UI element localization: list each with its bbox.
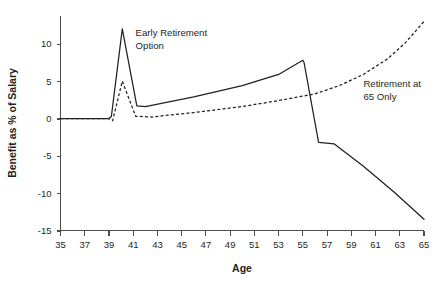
y-tick-label: 5 [46, 76, 51, 87]
y-tick-label: 0 [46, 113, 51, 124]
x-tick-label: 57 [322, 239, 333, 250]
axes-group [61, 16, 425, 231]
x-tick-label: 45 [176, 239, 187, 250]
annotation-line: Option [136, 40, 164, 51]
x-axis-title: Age [232, 262, 252, 274]
x-tick-label: 49 [225, 239, 236, 250]
annotation-line: Retirement at [363, 78, 421, 89]
y-tick-label: -10 [38, 188, 52, 199]
x-tick-label: 37 [79, 239, 90, 250]
y-axis-ticks: 1050-5-10-15 [38, 38, 61, 236]
y-tick-label: -15 [38, 225, 52, 236]
x-tick-label: 35 [55, 239, 66, 250]
annotation-line: 65 Only [363, 91, 396, 102]
y-axis-title: Benefit as % of Salary [6, 68, 18, 178]
x-tick-label: 47 [201, 239, 212, 250]
y-tick-label: 10 [41, 38, 52, 49]
y-tick-label: -5 [43, 150, 51, 161]
series-line-retirement-at-65-only [61, 21, 425, 120]
x-tick-label: 55 [298, 239, 309, 250]
x-axis-ticks: 35373941434547495153555759616365 [55, 231, 429, 251]
benefit-vs-age-line-chart: 1050-5-10-15 353739414345474951535557596… [0, 0, 448, 281]
x-tick-label: 63 [394, 239, 405, 250]
x-tick-label: 43 [152, 239, 163, 250]
x-tick-label: 51 [249, 239, 260, 250]
x-tick-label: 41 [128, 239, 139, 250]
x-tick-label: 59 [346, 239, 357, 250]
x-tick-label: 53 [273, 239, 284, 250]
annotation-line: Early Retirement [136, 27, 208, 38]
x-tick-label: 61 [370, 239, 381, 250]
data-series-layer [61, 21, 425, 219]
x-tick-label: 39 [104, 239, 115, 250]
x-tick-label: 65 [419, 239, 430, 250]
annotation-retirement-at-65-only: Retirement at65 Only [363, 78, 421, 102]
annotation-early-retirement-option: Early RetirementOption [136, 27, 208, 51]
series-line-early-retirement-option [61, 29, 425, 219]
chart-container: 1050-5-10-15 353739414345474951535557596… [0, 0, 448, 281]
